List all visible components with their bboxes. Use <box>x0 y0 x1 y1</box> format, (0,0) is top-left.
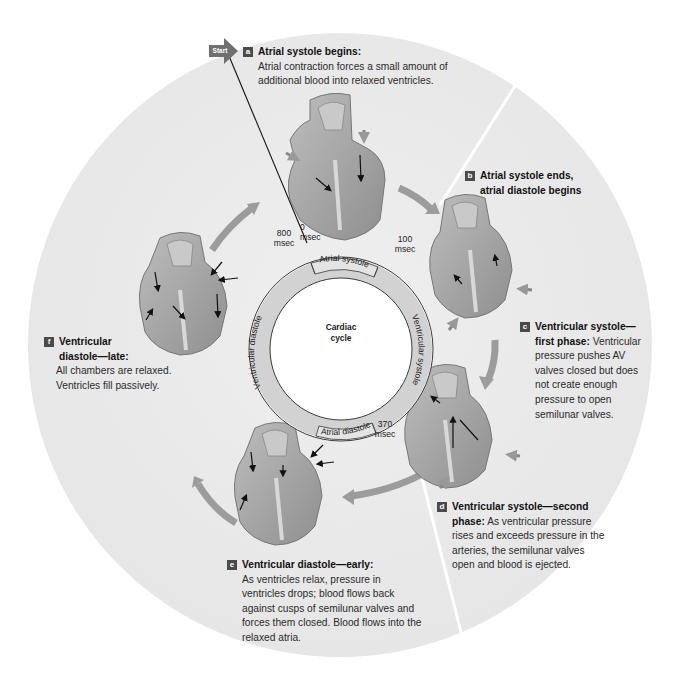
step-title-b: Atrial systole ends, atrial diastole beg… <box>465 169 590 198</box>
step-body-f: All chambers are relaxed. Ventricles fil… <box>56 364 184 393</box>
step-caption-e: e Ventricular diastole—early: As ventric… <box>227 558 422 646</box>
time-unit: msec <box>370 429 400 439</box>
time-label-0: 0 msec <box>300 222 321 242</box>
cardiac-cycle-ring <box>249 257 433 441</box>
time-value: 0 <box>300 222 321 232</box>
step-caption-d: d Ventricular systole—second phase: As v… <box>437 500 607 573</box>
center-label: Cardiac cycle <box>306 322 376 343</box>
step-title-e: Ventricular diastole—early: <box>242 558 422 573</box>
step-badge-f: f <box>44 337 54 347</box>
step-body-e: As ventricles relax, pressure in ventric… <box>242 573 422 646</box>
step-caption-c: c Ventricular systole— first phase: Vent… <box>520 320 645 422</box>
step-caption-a: aAtrial systole begins: Atrial contracti… <box>243 45 483 89</box>
step-title-a: Atrial systole begins: <box>258 46 361 57</box>
step-body-a: Atrial contraction forces a small amount… <box>243 60 483 89</box>
step-caption-b: b Atrial systole ends, atrial diastole b… <box>465 169 605 198</box>
time-unit: msec <box>300 232 321 242</box>
start-label: Start <box>209 46 231 56</box>
time-label-370: 370 msec <box>370 419 400 439</box>
time-value: 370 <box>370 419 400 429</box>
step-badge-e: e <box>227 560 237 570</box>
time-value: 100 <box>390 234 420 244</box>
step-caption-f: f Ventricular diastole—late: All chamber… <box>44 335 184 393</box>
center-label-line2: cycle <box>306 333 376 344</box>
step-badge-a: a <box>243 47 253 57</box>
center-label-line1: Cardiac <box>306 322 376 333</box>
step-title-f: Ventricular diastole—late: <box>59 335 149 364</box>
step-body-c: Ventricular pressure pushes AV valves cl… <box>535 336 641 420</box>
time-label-800: 800 msec <box>270 228 298 248</box>
time-unit: msec <box>390 244 420 254</box>
step-badge-d: d <box>437 502 447 512</box>
time-unit: msec <box>270 238 298 248</box>
time-value: 800 <box>270 228 298 238</box>
time-label-100: 100 msec <box>390 234 420 254</box>
step-badge-b: b <box>465 171 475 181</box>
step-badge-c: c <box>520 322 530 332</box>
